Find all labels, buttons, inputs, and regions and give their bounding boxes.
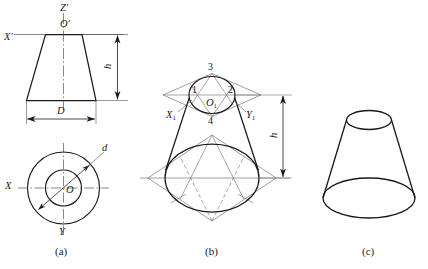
caption-a: (a) <box>55 246 67 257</box>
x1-axis-subscript: 1 <box>172 114 176 122</box>
o-origin-label: O <box>66 185 74 196</box>
caption-b: (b) <box>205 246 218 257</box>
construction-point-1-label: 1 <box>192 85 197 95</box>
y1-axis-label: Y1 <box>246 110 255 122</box>
engineering-drawing-figure: Z′ O′ X′ h D d X O Y 3 1 2 O1 4 X1 Y1 h … <box>0 0 428 269</box>
construction-point-2-label: 2 <box>228 85 233 95</box>
small-diameter-label: d <box>102 143 107 154</box>
construction-point-3-label: 3 <box>208 62 213 72</box>
z-prime-axis-label: Z′ <box>60 3 68 14</box>
o1-origin-letter: O <box>206 97 214 108</box>
o1-origin-subscript: 1 <box>214 102 218 110</box>
x-axis-label: X <box>5 181 11 192</box>
y1-axis-subscript: 1 <box>252 114 256 122</box>
o-prime-origin-label: O′ <box>60 19 70 30</box>
caption-c: (c) <box>362 246 374 257</box>
o1-origin-label: O1 <box>206 98 217 110</box>
x-prime-axis-label: X′ <box>4 32 13 43</box>
construction-point-4-label: 4 <box>208 116 213 126</box>
diameter-dimension-label: D <box>57 106 65 117</box>
x1-axis-label: X1 <box>166 110 176 122</box>
height-dimension-label: h <box>103 60 114 72</box>
y-axis-label: Y <box>59 227 65 238</box>
panel-b-height-label: h <box>269 129 280 141</box>
